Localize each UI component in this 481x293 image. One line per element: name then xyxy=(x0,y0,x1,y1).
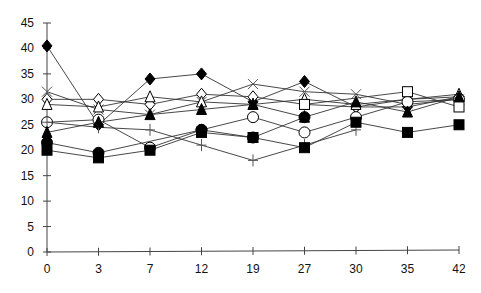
x-tick-label: 3 xyxy=(95,262,102,276)
y-tick-label: 10 xyxy=(21,194,35,208)
x-tick-label: 30 xyxy=(349,262,363,276)
axes: 051015202530354045037121927303542 xyxy=(21,16,466,276)
square-marker xyxy=(145,145,155,155)
x-tick-label: 35 xyxy=(401,262,415,276)
plus-marker xyxy=(248,154,258,166)
y-tick-label: 35 xyxy=(21,67,35,81)
diamond-marker xyxy=(145,73,155,85)
series-filled-circle xyxy=(42,112,311,159)
square-marker xyxy=(351,117,361,127)
square-marker xyxy=(403,87,413,97)
x-marker xyxy=(248,79,258,89)
square-marker xyxy=(248,133,258,143)
square-marker xyxy=(454,102,464,112)
square-marker xyxy=(454,120,464,130)
y-tick-label: 20 xyxy=(21,143,35,157)
x-tick-label: 0 xyxy=(44,262,51,276)
x-tick-label: 12 xyxy=(195,262,209,276)
y-tick-label: 0 xyxy=(27,245,34,259)
triangle-marker xyxy=(145,91,155,102)
plus-marker xyxy=(197,139,207,151)
circle-marker xyxy=(299,127,310,138)
x-tick-label: 7 xyxy=(147,262,154,276)
series-line xyxy=(47,117,305,153)
circle-marker xyxy=(248,112,259,123)
square-marker xyxy=(403,127,413,137)
y-tick-label: 15 xyxy=(21,169,35,183)
x-tick-label: 42 xyxy=(452,262,466,276)
diamond-marker xyxy=(197,68,207,80)
y-tick-label: 25 xyxy=(21,118,35,132)
square-marker xyxy=(300,143,310,153)
square-marker xyxy=(42,145,52,155)
square-marker xyxy=(300,99,310,109)
square-marker xyxy=(197,127,207,137)
x-tick-label: 19 xyxy=(246,262,260,276)
plus-marker xyxy=(145,124,155,136)
series-group xyxy=(42,40,465,166)
y-tick-label: 45 xyxy=(21,16,35,30)
x-tick-label: 27 xyxy=(298,262,312,276)
y-tick-label: 30 xyxy=(21,92,35,106)
diamond-marker xyxy=(300,76,310,88)
diamond-marker xyxy=(42,40,52,52)
y-tick-label: 40 xyxy=(21,41,35,55)
line-chart: 051015202530354045037121927303542 xyxy=(0,0,481,293)
square-marker xyxy=(94,153,104,163)
circle-marker xyxy=(299,112,310,123)
y-tick-label: 5 xyxy=(27,220,34,234)
